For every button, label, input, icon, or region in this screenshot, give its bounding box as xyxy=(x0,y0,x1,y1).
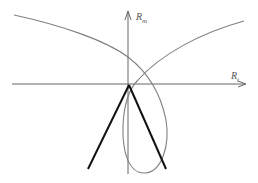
phase-diagram: Rm Rt xyxy=(0,0,258,183)
bold-v-lines xyxy=(88,85,166,169)
diagram-canvas xyxy=(0,0,258,183)
horizontal-axis-label: Rt xyxy=(231,71,239,84)
curve-loop xyxy=(14,15,244,173)
vertical-axis-label: Rm xyxy=(136,12,147,25)
